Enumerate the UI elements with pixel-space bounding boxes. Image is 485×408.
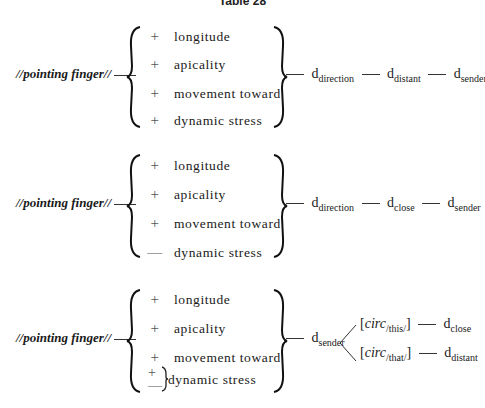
feature-row: +apicality [144, 56, 226, 73]
lhs-label: //pointing finger// [16, 66, 136, 82]
sign-minus: — [148, 380, 162, 391]
feature-row: dynamic stress [168, 372, 256, 388]
diagram-3: //pointing finger// +longitude +apicalit… [0, 285, 485, 403]
diagram-1: //pointing finger// +longitude +apicalit… [0, 22, 485, 132]
diagram-2: //pointing finger// +longitude +apicalit… [0, 150, 485, 265]
feature-row: +longitude [144, 157, 230, 174]
output-chain: dsender [282, 330, 345, 348]
left-brace-icon [126, 26, 142, 128]
left-brace-icon [126, 154, 142, 258]
feature-row: +dynamic stress [144, 112, 262, 129]
feature-row: +movement toward [144, 215, 281, 232]
feature-row: +movement toward [144, 85, 281, 102]
branch-that: [circ/that/] ddistant [360, 345, 478, 363]
output-chain: ddirection ddistant dsender [282, 66, 485, 84]
table-title: Table 28 [0, 0, 485, 8]
lhs-label: //pointing finger// [16, 330, 136, 346]
sign-plus: + [148, 367, 156, 378]
branch-this: [circ/this/] dclose [360, 316, 471, 334]
output-chain: ddirection dclose dsender [282, 195, 481, 213]
feature-row: +apicality [144, 320, 226, 337]
feature-row: +longitude [144, 291, 230, 308]
lhs-label: //pointing finger// [16, 195, 136, 211]
branch-fork-icon [338, 323, 358, 363]
left-brace-icon [126, 289, 142, 393]
feature-row: +movement toward [144, 349, 281, 366]
feature-row: +apicality [144, 186, 226, 203]
feature-row: —dynamic stress [144, 244, 262, 261]
feature-row: +longitude [144, 28, 230, 45]
